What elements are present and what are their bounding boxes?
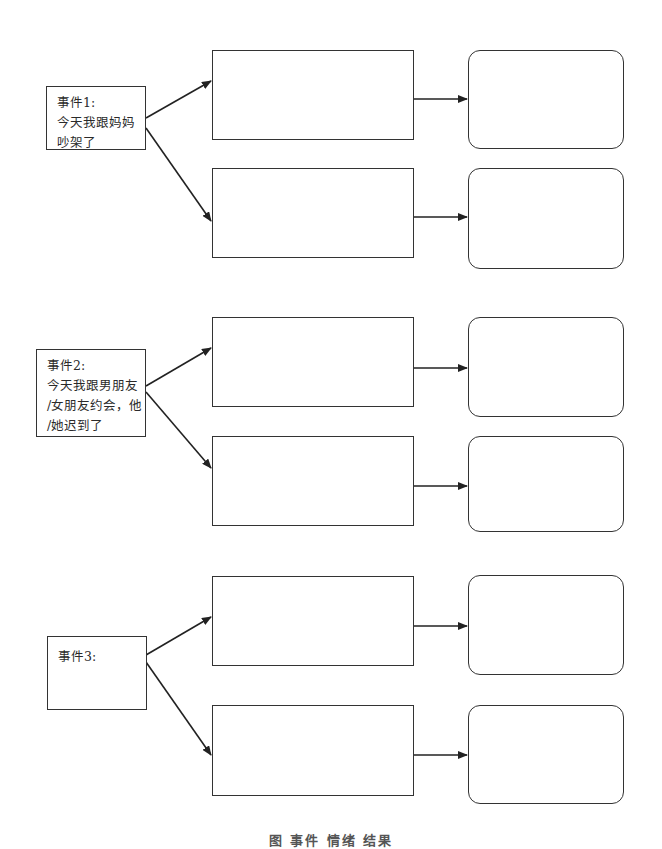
event-box-1: 事件1: 今天我跟妈妈 吵架了 xyxy=(46,86,146,150)
event-title: 事件2: xyxy=(47,356,145,376)
result-box-2b[interactable] xyxy=(468,436,624,532)
thought-box-3b[interactable] xyxy=(212,705,414,796)
thought-box-1b[interactable] xyxy=(212,168,414,258)
figure-caption: 图 事件 情绪 结果 xyxy=(0,830,662,849)
event-box-3: 事件3: xyxy=(47,636,147,710)
event-box-2: 事件2: 今天我跟男朋友 /女朋友约会，他 /她迟到了 xyxy=(36,349,146,437)
event-title: 事件1: xyxy=(57,93,145,113)
event-title: 事件3: xyxy=(58,647,146,667)
event-text-line: /她迟到了 xyxy=(47,416,145,436)
event-text-line: 吵架了 xyxy=(57,133,145,153)
result-box-3b[interactable] xyxy=(468,705,624,804)
result-box-3a[interactable] xyxy=(468,575,624,675)
event-text-line: /女朋友约会，他 xyxy=(47,396,145,416)
event-text-line: 今天我跟妈妈 xyxy=(57,113,145,133)
thought-box-2a[interactable] xyxy=(212,317,414,407)
result-box-1a[interactable] xyxy=(468,50,624,149)
event-text-line: 今天我跟男朋友 xyxy=(47,376,145,396)
thought-box-1a[interactable] xyxy=(212,50,414,140)
thought-box-3a[interactable] xyxy=(212,576,414,666)
result-box-2a[interactable] xyxy=(468,317,624,417)
result-box-1b[interactable] xyxy=(468,168,624,269)
thought-box-2b[interactable] xyxy=(212,436,414,526)
